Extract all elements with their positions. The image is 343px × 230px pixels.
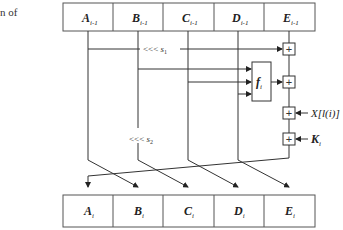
adder-4: + (286, 133, 292, 145)
rotate-s1-label: <<< s1 (143, 44, 167, 55)
compression-function-diagram: Ai-1 Bi-1 Ci-1 Di-1 Ei-1 (0, 0, 343, 230)
adder-2: + (286, 76, 292, 88)
adder-1: + (286, 43, 292, 55)
data-paths (88, 31, 308, 187)
function-box: fi (252, 62, 271, 101)
bottom-register-row: Ai Bi Ci Di Ei (63, 195, 315, 227)
message-word-label: X[l(i)] (310, 107, 340, 120)
adder-3: + (286, 107, 292, 119)
rotate-s2-label: <<< s2 (129, 134, 153, 145)
top-register-row: Ai-1 Bi-1 Ci-1 Di-1 Ei-1 (63, 3, 315, 31)
round-constant-label: Ki (310, 132, 321, 148)
